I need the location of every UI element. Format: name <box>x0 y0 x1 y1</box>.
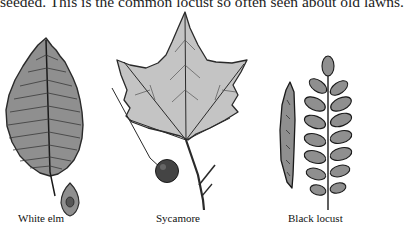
black-locust-leaf-icon <box>302 56 353 210</box>
caption-sycamore: Sycamore <box>156 212 200 224</box>
caption-black-locust: Black locust <box>288 212 343 224</box>
black-locust-pod-icon <box>280 82 295 188</box>
white-elm-leaf-icon <box>6 38 83 196</box>
caption-white-elm: White elm <box>18 212 64 224</box>
sycamore-seed-ball-icon <box>156 160 179 183</box>
sycamore-leaf-icon <box>112 12 247 210</box>
